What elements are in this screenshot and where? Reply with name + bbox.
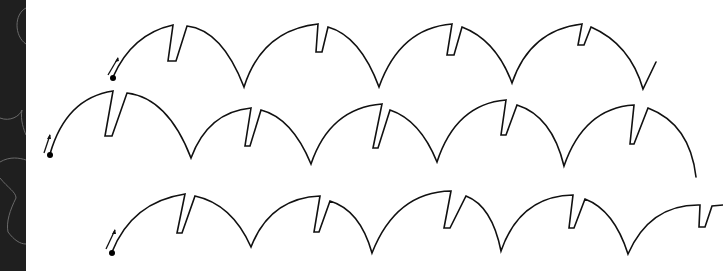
stitch-path-diagram bbox=[0, 0, 723, 271]
row-1-path bbox=[108, 24, 656, 89]
row-2-start-dot bbox=[47, 152, 53, 158]
row-2-direction-arrow-icon bbox=[44, 134, 51, 153]
row-1-start-dot bbox=[110, 75, 116, 81]
row-2-path bbox=[44, 91, 696, 177]
row-3-path bbox=[106, 191, 723, 256]
row-1-direction-arrow-icon bbox=[108, 57, 119, 75]
row-3-start-dot bbox=[109, 250, 115, 256]
